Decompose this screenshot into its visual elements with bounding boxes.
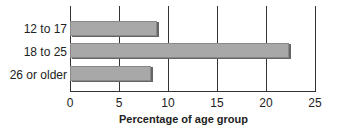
x-tick-label: 5 <box>116 96 123 110</box>
x-axis-title: Percentage of age group <box>0 113 337 125</box>
x-tick-label: 15 <box>210 96 223 110</box>
category-label: 18 to 25 <box>24 45 67 59</box>
bar-26-or-older <box>70 66 151 81</box>
category-label: 26 or older <box>10 68 67 82</box>
x-tick-label: 20 <box>259 96 272 110</box>
bar-18-to-25 <box>70 43 289 58</box>
x-axis <box>70 91 315 92</box>
category-label: 12 to 17 <box>24 22 67 36</box>
x-tick-label: 10 <box>161 96 174 110</box>
bar-12-to-17 <box>70 21 157 36</box>
x-tick-label: 0 <box>67 96 74 110</box>
x-tick-label: 25 <box>308 96 321 110</box>
plot-area <box>70 6 315 92</box>
gridline <box>315 6 316 92</box>
